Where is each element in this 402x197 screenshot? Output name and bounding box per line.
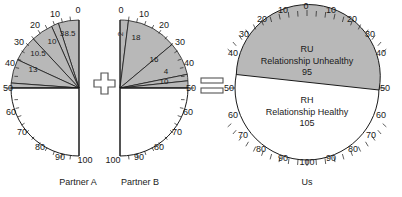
- tick-label: 40: [228, 48, 238, 58]
- tick-label: 80: [348, 144, 358, 154]
- tick-label: 90: [134, 152, 144, 162]
- tick-label: 50: [186, 83, 196, 93]
- equals-operator: =: [201, 78, 223, 93]
- tick-label: 70: [172, 127, 182, 137]
- tick-label: 60: [376, 110, 386, 120]
- tick-label: 40: [5, 58, 15, 68]
- sector-label: 2: [116, 31, 125, 36]
- sector-label: 4: [164, 67, 169, 76]
- sector-label: 16: [150, 55, 159, 64]
- tick-label: 60: [228, 110, 238, 120]
- healthy-name: Relationship Healthy: [266, 107, 349, 117]
- tick-label: 80: [256, 144, 266, 154]
- tick-label: 0: [303, 1, 308, 11]
- tick-label: 30: [14, 37, 24, 47]
- plus-operator: +: [94, 73, 115, 94]
- sector-label: 10.5: [30, 49, 46, 58]
- tick-label: 100: [299, 157, 314, 167]
- tick-label: 90: [55, 152, 65, 162]
- tick-label: 20: [159, 20, 169, 30]
- panel-partner-a: 0 10 20 30 40 50 60 70 80 90 100 8.5 3 1…: [3, 5, 97, 187]
- sector-label: 3: [60, 29, 65, 38]
- diagram-svg: 0 10 20 30 40 50 60 70 80 90 100 8.5 3 1…: [0, 0, 402, 197]
- sector-label: 13: [29, 65, 38, 74]
- tick-label: 50: [380, 83, 390, 93]
- tick-label: 0: [118, 5, 123, 15]
- tick-label: 100: [77, 155, 92, 165]
- sector-label: 10: [48, 37, 57, 46]
- tick-label: 50: [224, 83, 234, 93]
- partner-b-sectors: [120, 20, 188, 88]
- tick-label: 60: [6, 107, 16, 117]
- tick-label: 90: [278, 153, 288, 163]
- tick-label: 70: [366, 130, 376, 140]
- tick-label: 80: [35, 142, 45, 152]
- tick-label: 30: [365, 29, 375, 39]
- panel-us: 0 10 20 30 40 50 60 70 80 90 100 10 20 3…: [224, 1, 390, 187]
- us-caption: Us: [302, 177, 313, 187]
- figure-canvas: 0 10 20 30 40 50 60 70 80 90 100 8.5 3 1…: [0, 0, 402, 197]
- panel-partner-b: 0 10 20 30 40 50 60 70 80 90 100 2 18 16…: [105, 5, 196, 187]
- tick-label: 30: [239, 29, 249, 39]
- equals-icon-bar-top: [201, 78, 223, 83]
- partner-b-caption: Partner B: [121, 177, 159, 187]
- healthy-abbr: RH: [301, 95, 314, 105]
- equals-icon-bar-bottom: [201, 88, 223, 93]
- plus-icon: [94, 73, 115, 94]
- tick-label: 10: [326, 5, 336, 15]
- healthy-value: 105: [299, 118, 314, 128]
- tick-label: 10: [139, 9, 149, 19]
- unhealthy-name: Relationship Unhealthy: [261, 56, 354, 66]
- tick-label: 60: [183, 107, 193, 117]
- sector-label: 10: [160, 77, 169, 86]
- partner-a-caption: Partner A: [59, 177, 97, 187]
- tick-label: 20: [347, 14, 357, 24]
- tick-label: 100: [105, 155, 120, 165]
- tick-label: 20: [257, 14, 267, 24]
- tick-label: 80: [154, 142, 164, 152]
- tick-label: 20: [30, 20, 40, 30]
- tick-label: 10: [278, 5, 288, 15]
- unhealthy-value: 95: [302, 67, 312, 77]
- tick-label: 50: [3, 83, 13, 93]
- tick-label: 10: [50, 9, 60, 19]
- unhealthy-abbr: RU: [301, 44, 314, 54]
- tick-label: 90: [326, 153, 336, 163]
- tick-label: 40: [376, 48, 386, 58]
- tick-label: 70: [238, 130, 248, 140]
- tick-label: 0: [75, 5, 80, 15]
- sector-label: 8.5: [64, 29, 76, 38]
- tick-label: 40: [184, 58, 194, 68]
- tick-label: 30: [175, 37, 185, 47]
- tick-label: 70: [17, 127, 27, 137]
- sector-label: 18: [132, 33, 141, 42]
